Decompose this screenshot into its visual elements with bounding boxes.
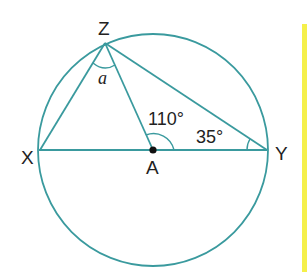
centre-point-a — [149, 146, 156, 153]
circle-geometry-diagram: Z X Y A a 110° 35° — [0, 0, 307, 272]
angle-label-35: 35° — [196, 127, 223, 147]
label-x: X — [21, 147, 34, 168]
angle-arc-y — [247, 139, 250, 150]
angle-label-110: 110° — [148, 109, 184, 129]
angle-label-a-var: a — [98, 68, 107, 88]
label-z: Z — [98, 18, 110, 39]
yellow-accent-bar — [302, 24, 307, 272]
label-a: A — [146, 157, 159, 178]
label-y: Y — [275, 143, 288, 164]
chord-zx — [40, 43, 105, 150]
